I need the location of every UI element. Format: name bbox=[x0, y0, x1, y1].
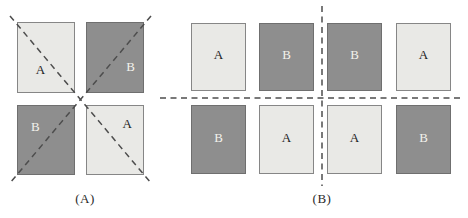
panel-b-square-2: B bbox=[259, 23, 314, 91]
panel-b-square-6-label: A bbox=[282, 130, 291, 143]
panel-b-square-4: A bbox=[396, 23, 451, 91]
panel-b-square-6: A bbox=[259, 105, 314, 174]
panel-b-square-5-label: B bbox=[214, 130, 223, 143]
panel-b-square-5: B bbox=[191, 105, 246, 174]
panel-a-square-2: B bbox=[86, 22, 144, 93]
panel-b-square-8-label: B bbox=[419, 130, 428, 143]
panel-b-square-1-label: A bbox=[214, 48, 223, 61]
panel-a-square-4-label: A bbox=[123, 117, 132, 130]
panel-a-square-4: A bbox=[86, 105, 144, 175]
panel-a-square-2-label: B bbox=[126, 59, 135, 72]
panel-b-square-2-label: B bbox=[282, 48, 291, 61]
panel-a-square-3-label: B bbox=[31, 119, 40, 132]
panel-b-square-4-label: A bbox=[419, 48, 428, 61]
panel-b-caption: (B) bbox=[282, 191, 362, 207]
panel-b-square-8: B bbox=[396, 105, 451, 174]
panel-b-square-1: A bbox=[191, 23, 246, 91]
panel-a-square-1-label: A bbox=[36, 63, 45, 76]
panel-b-square-7-label: A bbox=[350, 130, 359, 143]
panel-a-caption: (A) bbox=[45, 191, 125, 207]
panel-b-square-7: A bbox=[327, 105, 382, 174]
panel-a-square-3: B bbox=[17, 105, 75, 175]
panel-b-square-3-label: B bbox=[350, 48, 359, 61]
panel-a-square-1: A bbox=[17, 22, 75, 93]
twin-domain-figure: A B B A A B B A B A A B (A) (B) bbox=[0, 0, 468, 218]
panel-b-square-3: B bbox=[327, 23, 382, 91]
